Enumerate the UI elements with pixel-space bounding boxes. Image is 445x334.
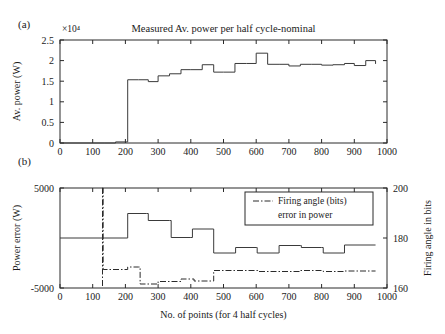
panel_b-yticklabel-right: 200 — [393, 183, 408, 194]
panel_b-group: 01002003004005006007008009001000-5000500… — [11, 183, 433, 322]
panel_b-yticklabel: -5000 — [31, 283, 54, 294]
panel_a-xticklabel: 300 — [151, 146, 166, 157]
panel_b-legend-label-1: Firing angle (bits) — [278, 196, 347, 207]
panel_b-xlabel: No. of points (for 4 half cycles) — [160, 309, 286, 321]
panel_a-series-0 — [60, 53, 376, 143]
panel_a-xticklabel: 200 — [118, 146, 133, 157]
panel_b-yticklabel-right: 180 — [393, 233, 408, 244]
panel_a-yticklabel: 0.5 — [42, 117, 55, 128]
panel_b-xticklabel: 100 — [85, 291, 100, 302]
panel_b-ylabel: Power error (W) — [11, 205, 23, 271]
panel_b-xticklabel: 600 — [249, 291, 264, 302]
panel_a-yticklabel: 2.5 — [42, 35, 55, 46]
panel_a-xticklabel: 900 — [347, 146, 362, 157]
panel_a-xticklabel: 600 — [249, 146, 264, 157]
panel_a-group: 0100200300400500600700800900100000.511.5… — [11, 23, 397, 157]
panel_b-xticklabel: 300 — [151, 291, 166, 302]
panel_a-xticklabel: 700 — [281, 146, 296, 157]
panel_b-xticklabel: 500 — [216, 291, 231, 302]
panel_a-xticklabel: 500 — [216, 146, 231, 157]
panel_a-axes-frame — [60, 40, 387, 143]
panel_a-y-exponent-label: ×10⁴ — [62, 24, 81, 34]
panel_b-xticklabel: 200 — [118, 291, 133, 302]
panel_b-legend-label-2: error in power — [278, 210, 333, 220]
figure-svg: 0100200300400500600700800900100000.511.5… — [0, 0, 445, 334]
panel_b-ylabel-right: Firing angle in bits — [422, 200, 433, 276]
figure-container: (a) (b) 01002003004005006007008009001000… — [0, 0, 445, 334]
panel-b-label: (b) — [18, 155, 31, 167]
panel_a-yticklabel: 1.5 — [42, 76, 55, 87]
panel_a-xticklabel: 1000 — [377, 146, 397, 157]
panel_a-yticklabel: 2 — [49, 55, 54, 66]
panel_a-title: Measured Av. power per half cycle-nomina… — [132, 23, 316, 34]
panel_b-yticklabel: 5000 — [34, 183, 54, 194]
panel_b-xticklabel: 0 — [58, 291, 63, 302]
panel_b-xticklabel: 800 — [314, 291, 329, 302]
panel_b-xticklabel: 900 — [347, 291, 362, 302]
panel-a-label: (a) — [18, 18, 30, 30]
panel_a-ylabel: Av. power (W) — [11, 62, 23, 121]
panel_a-yticklabel: 1 — [49, 96, 54, 107]
panel_b-xticklabel: 700 — [281, 291, 296, 302]
panel_a-xticklabel: 0 — [58, 146, 63, 157]
panel_a-xticklabel: 400 — [183, 146, 198, 157]
panel_b-yticklabel-right: 160 — [393, 283, 408, 294]
panel_a-xticklabel: 100 — [85, 146, 100, 157]
panel_a-xticklabel: 800 — [314, 146, 329, 157]
panel_a-yticklabel: 0 — [49, 138, 54, 149]
panel_b-xticklabel: 400 — [183, 291, 198, 302]
